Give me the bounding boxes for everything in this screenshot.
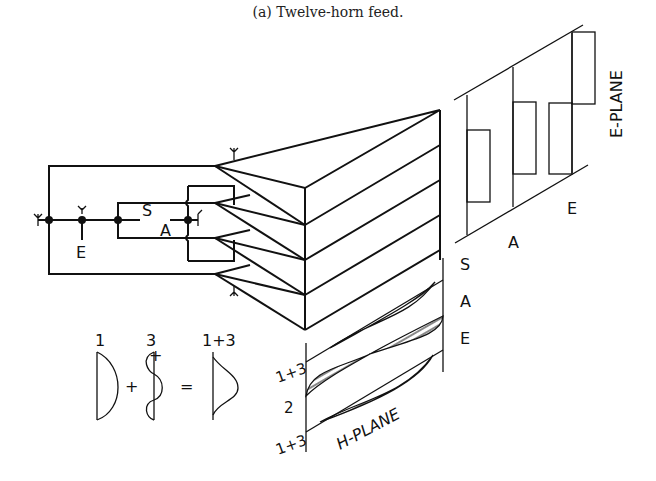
e-plane-label-e: E — [567, 199, 577, 218]
termination-icon — [78, 206, 86, 214]
termination-icon — [230, 148, 238, 160]
h-plane-mode-e: E — [460, 329, 470, 348]
h-plane-row-label-2: 2 — [284, 399, 294, 417]
h-plane-mode-s: S — [460, 255, 470, 274]
feed-network: S A E — [34, 148, 238, 296]
mode-1-label: 1 — [95, 331, 105, 350]
mode-sum-label: 1+3 — [202, 331, 236, 350]
h-plane-row-label-1: 1+3 — [273, 359, 309, 387]
label-s: S — [142, 201, 152, 220]
termination-icon — [198, 210, 202, 226]
e-plane-label-a: A — [508, 233, 519, 252]
e-plane-title: E-PLANE — [607, 70, 626, 138]
mode-3-label-text: 3 — [146, 331, 156, 350]
e-plane-distributions: A E E-PLANE — [454, 25, 626, 252]
label-a: A — [160, 221, 171, 240]
h-plane-mode-a: A — [460, 292, 471, 311]
h-plane-distributions: S A E 1+3 2 1+3 H-PLANE — [273, 255, 471, 459]
h-plane-row-label-3: 1+3 — [273, 431, 309, 459]
plus-symbol: + — [125, 377, 138, 396]
equals-symbol: = — [180, 377, 193, 396]
label-e: E — [76, 243, 86, 262]
twelve-horn-feed-diagram: S A E — [0, 0, 656, 481]
mode-superposition: 1 + 3 + = 1+3 — [95, 331, 238, 420]
horn-stack — [215, 110, 440, 330]
